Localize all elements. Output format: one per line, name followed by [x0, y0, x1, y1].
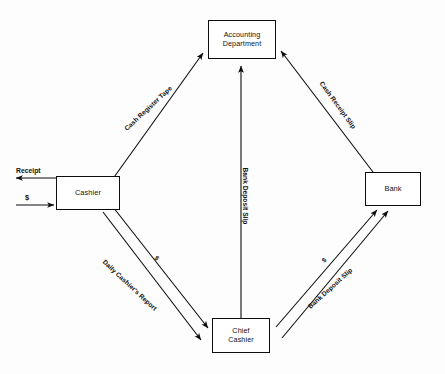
node-accounting-department[interactable]: Accounting Department	[208, 20, 276, 59]
node-chief-cashier-label: Chief Cashier	[228, 327, 253, 344]
node-bank-label: Bank	[384, 185, 401, 194]
node-bank[interactable]: Bank	[365, 172, 421, 206]
edge-chief-cashier-to-bank-slip	[282, 211, 388, 338]
node-cashier[interactable]: Cashier	[56, 176, 120, 210]
edge-bank-to-accounting	[281, 51, 376, 176]
edge-label-bank-deposit-slip-center: Bank Deposit Slip	[242, 168, 249, 225]
node-accounting-department-label: Accounting Department	[223, 31, 262, 48]
diagram-canvas: Accounting Department Cashier Bank Chief…	[0, 0, 445, 374]
io-label-cash-in: $	[25, 193, 29, 202]
node-cashier-label: Cashier	[75, 189, 101, 198]
node-chief-cashier[interactable]: Chief Cashier	[212, 318, 270, 353]
edge-chief-cashier-to-bank-money	[276, 210, 377, 327]
edge-cashier-to-chief-cashier-money	[113, 207, 208, 328]
io-label-receipt: Receipt	[16, 167, 41, 174]
edge-cashier-to-accounting	[112, 53, 203, 180]
